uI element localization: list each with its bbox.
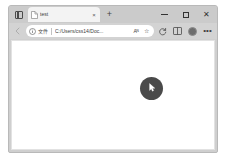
toolbar-actions: ••• <box>155 24 217 38</box>
split-screen-icon <box>173 27 182 35</box>
tab-close-icon[interactable]: × <box>90 11 98 19</box>
read-aloud-icon[interactable]: Aᴺ <box>131 26 141 36</box>
page-content-area[interactable] <box>11 40 215 150</box>
omnibox-separator <box>51 28 52 35</box>
vertical-tabs-icon <box>15 11 23 19</box>
split-screen-button[interactable] <box>170 24 185 38</box>
close-window-button[interactable]: ✕ <box>196 6 217 23</box>
document-icon <box>31 11 38 19</box>
minimize-button[interactable] <box>154 6 175 23</box>
tab-title: test <box>40 11 90 18</box>
edge-browser-window: test × + ✕ <box>8 5 218 153</box>
browser-tab[interactable]: test × <box>28 7 100 22</box>
address-bar[interactable]: 文件 C:/Users/css14/Doc... Aᴺ ☆ <box>26 25 154 37</box>
settings-more-icon: ••• <box>203 28 211 34</box>
mouse-cursor-highlight <box>140 77 163 100</box>
maximize-button[interactable] <box>175 6 196 23</box>
browser-toolbar: 文件 C:/Users/css14/Doc... Aᴺ ☆ <box>9 23 217 39</box>
url-scheme-label: 文件 <box>38 28 48 35</box>
close-icon: ✕ <box>203 11 210 19</box>
info-circle-icon[interactable] <box>29 28 36 35</box>
cursor-arrow-icon <box>149 83 156 92</box>
new-tab-button[interactable]: + <box>104 9 115 20</box>
collections-button[interactable] <box>155 24 170 38</box>
avatar <box>188 27 197 36</box>
settings-more-button[interactable]: ••• <box>200 24 215 38</box>
url-text: C:/Users/css14/Doc... <box>55 28 131 35</box>
collections-icon <box>158 27 167 36</box>
window-controls: ✕ <box>154 6 217 23</box>
back-arrow-icon <box>14 27 22 35</box>
maximize-icon <box>183 12 189 18</box>
profile-button[interactable] <box>185 24 200 38</box>
tab-strip: test × + ✕ <box>9 6 217 23</box>
minimize-icon <box>161 14 168 15</box>
vertical-tabs-toggle-button[interactable] <box>12 9 25 21</box>
favorites-star-icon[interactable]: ☆ <box>141 26 151 36</box>
back-button[interactable] <box>11 24 25 38</box>
